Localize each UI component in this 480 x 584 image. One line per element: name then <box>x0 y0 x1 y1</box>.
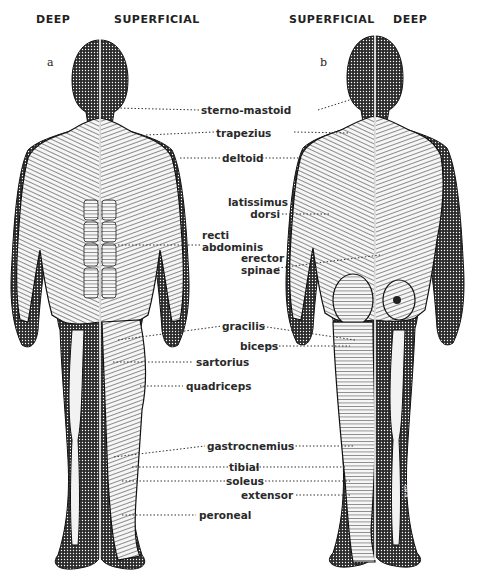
label-recti-line1: recti <box>202 229 263 241</box>
figure-b-label: b <box>320 56 327 69</box>
label-latissimus-line2: dorsi <box>228 208 280 220</box>
label-latissimus-line1: latissimus <box>228 196 280 208</box>
label-peroneal: peroneal <box>199 509 251 521</box>
label-erector-line2: spinae <box>241 264 284 276</box>
label-quadriceps: quadriceps <box>186 380 251 392</box>
anatomy-figures: GH.R. <box>0 0 480 584</box>
label-deltoid: deltoid <box>222 152 264 164</box>
label-tibial: tibial <box>229 461 259 473</box>
label-soleus: soleus <box>226 475 264 487</box>
label-gracilis: gracilis <box>222 320 265 332</box>
label-recti-abdominis: recti abdominis <box>202 229 263 253</box>
header-a-superficial: SUPERFICIAL <box>114 13 200 26</box>
muscle-diagram: GH.R. DEEP SUPERFICIAL SUPERFICIAL DEEP … <box>0 0 480 584</box>
figure-b-posterior <box>286 34 464 567</box>
label-sartorius: sartorius <box>196 356 249 368</box>
label-erector-spinae: erector spinae <box>241 252 284 276</box>
label-latissimus-dorsi: latissimus dorsi <box>228 196 280 220</box>
header-b-deep: DEEP <box>393 13 427 26</box>
label-gastrocnemius: gastrocnemius <box>207 440 294 452</box>
figure-a-label: a <box>47 56 54 69</box>
header-a-deep: DEEP <box>36 13 70 26</box>
label-extensor: extensor <box>241 489 293 501</box>
label-biceps: biceps <box>240 340 278 352</box>
figure-a-anterior <box>11 38 189 569</box>
label-erector-line1: erector <box>241 252 284 264</box>
artist-signature: GH.R. <box>403 485 409 499</box>
label-sterno-mastoid: sterno-mastoid <box>201 104 291 116</box>
label-trapezius: trapezius <box>216 127 271 139</box>
header-b-superficial: SUPERFICIAL <box>289 13 375 26</box>
